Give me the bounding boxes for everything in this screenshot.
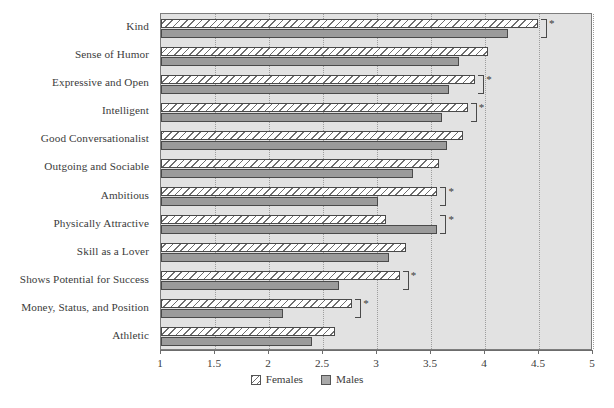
bar-females [161, 19, 538, 28]
significance-asterisk: * [363, 298, 369, 309]
hatched-swatch [251, 375, 261, 385]
gridline [593, 14, 594, 349]
bar-females [161, 243, 406, 252]
x-axis-tick [376, 350, 377, 354]
plot-area: ******* [160, 13, 592, 350]
bar-females [161, 271, 400, 280]
bar-males [161, 309, 283, 318]
x-axis-tick [322, 350, 323, 354]
category-label: Physically Attractive [0, 217, 155, 229]
legend-label: Males [336, 374, 363, 385]
significance-bracket [403, 271, 409, 290]
significance-asterisk: * [549, 18, 555, 29]
legend-label: Females [266, 374, 303, 385]
bar-females [161, 187, 437, 196]
bar-males [161, 253, 389, 262]
significance-bracket [440, 215, 446, 234]
legend-item: Females [251, 374, 303, 385]
bar-males [161, 197, 378, 206]
x-axis-tick [214, 350, 215, 354]
horizontal-bar-chart: KindSense of HumorExpressive and OpenInt… [0, 0, 614, 408]
category-label: Good Conversationalist [0, 132, 155, 144]
category-label: Skill as a Lover [0, 245, 155, 257]
x-axis-tick [268, 350, 269, 354]
x-axis-tick [484, 350, 485, 354]
bar-males [161, 29, 508, 38]
x-axis [160, 350, 592, 351]
bar-males [161, 57, 459, 66]
x-axis-tick-label: 5 [589, 357, 595, 369]
significance-asterisk: * [486, 74, 492, 85]
significance-bracket [355, 299, 361, 318]
x-axis-tick-label: 3 [373, 357, 379, 369]
bar-males [161, 141, 447, 150]
significance-bracket [471, 103, 477, 122]
significance-bracket [478, 75, 484, 94]
category-label: Ambitious [0, 189, 155, 201]
significance-asterisk: * [479, 102, 485, 113]
significance-asterisk: * [448, 214, 454, 225]
bar-males [161, 169, 413, 178]
bar-males [161, 85, 449, 94]
x-axis-tick [538, 350, 539, 354]
bar-females [161, 299, 352, 308]
x-axis-tick-label: 2.5 [315, 357, 329, 369]
significance-bracket [440, 187, 446, 206]
x-axis-tick-label: 4 [481, 357, 487, 369]
x-axis-tick [592, 350, 593, 354]
category-axis-labels: KindSense of HumorExpressive and OpenInt… [0, 13, 155, 350]
bar-males [161, 113, 442, 122]
x-axis-tick-label: 3.5 [423, 357, 437, 369]
category-label: Expressive and Open [0, 76, 155, 88]
bar-females [161, 131, 463, 140]
significance-asterisk: * [448, 186, 454, 197]
x-axis-tick-label: 1.5 [207, 357, 221, 369]
bar-females [161, 327, 335, 336]
category-label: Outgoing and Sociable [0, 160, 155, 172]
category-label: Money, Status, and Position [0, 301, 155, 313]
bar-females [161, 75, 475, 84]
bar-females [161, 215, 386, 224]
x-axis-tick-label: 4.5 [531, 357, 545, 369]
gridline [539, 14, 540, 349]
gridline [485, 14, 486, 349]
chart-legend: FemalesMales [0, 374, 614, 385]
category-label: Intelligent [0, 104, 155, 116]
legend-item: Males [321, 374, 363, 385]
significance-asterisk: * [411, 270, 417, 281]
x-axis-tick-label: 2 [265, 357, 271, 369]
category-label: Sense of Humor [0, 48, 155, 60]
x-axis-tick [430, 350, 431, 354]
x-axis-tick-label: 1 [157, 357, 163, 369]
bar-males [161, 225, 437, 234]
significance-bracket [541, 19, 547, 38]
category-label: Athletic [0, 329, 155, 341]
bar-females [161, 103, 468, 112]
category-label: Shows Potential for Success [0, 273, 155, 285]
bar-females [161, 159, 439, 168]
category-label: Kind [0, 20, 155, 32]
bar-males [161, 337, 312, 346]
x-axis-tick [160, 350, 161, 354]
bar-males [161, 281, 339, 290]
bar-females [161, 47, 488, 56]
gray-swatch [321, 375, 331, 385]
